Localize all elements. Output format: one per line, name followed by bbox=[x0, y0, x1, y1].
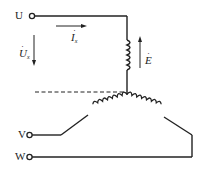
circuit-lines bbox=[0, 0, 206, 172]
voltage-subscript: x bbox=[27, 54, 30, 60]
terminal-u-label: U bbox=[15, 10, 23, 21]
terminal-w-label: W bbox=[15, 151, 25, 162]
terminal-w-circle bbox=[27, 154, 32, 159]
u-phase-coil bbox=[127, 40, 130, 70]
terminal-v-label: V bbox=[18, 129, 26, 140]
w-phase-coil bbox=[127, 86, 162, 110]
terminal-v-circle bbox=[27, 132, 32, 137]
current-dot: · bbox=[73, 26, 76, 35]
current-arrow-head bbox=[81, 24, 87, 28]
emf-dot: · bbox=[147, 49, 150, 58]
v-winding-line bbox=[61, 115, 88, 135]
current-label: · Ix bbox=[71, 32, 77, 44]
voltage-label: · Ux bbox=[19, 48, 30, 60]
w-winding-line bbox=[164, 117, 192, 135]
voltage-arrow-head bbox=[32, 60, 36, 66]
emf-arrow-head bbox=[138, 36, 142, 42]
terminal-u-circle bbox=[29, 13, 34, 18]
v-phase-coil bbox=[92, 86, 127, 110]
emf-label: · E bbox=[145, 55, 152, 66]
current-subscript: x bbox=[75, 38, 78, 44]
voltage-dot: · bbox=[21, 42, 24, 51]
